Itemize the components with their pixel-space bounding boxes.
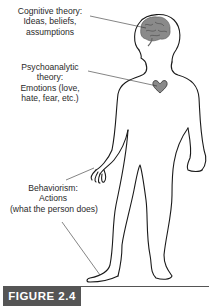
- psychoanalytic-line-1: Psychoanalytic: [14, 62, 86, 72]
- psychoanalytic-line-4: hate, fear, etc.): [14, 93, 86, 103]
- body-outline: [87, 15, 206, 282]
- leader-psychoanalytic: [88, 71, 157, 86]
- leader-lines: [62, 16, 157, 275]
- leader-cognitive: [90, 16, 146, 28]
- brain-icon: [141, 17, 170, 46]
- leader-behaviorism-hand: [66, 168, 94, 180]
- cognitive-line-3: assumptions: [8, 27, 92, 37]
- psychoanalytic-line-2: theory:: [14, 72, 86, 82]
- cognitive-line-2: Ideas, beliefs,: [8, 16, 92, 26]
- behaviorism-label: Behaviorism: Actions (what the person do…: [10, 183, 96, 214]
- cognitive-line-1: Cognitive theory:: [8, 6, 92, 16]
- behaviorism-line-3: (what the person does): [10, 204, 96, 214]
- human-figure-illustration: [0, 0, 212, 308]
- heart-icon: [153, 81, 167, 93]
- cognitive-theory-label: Cognitive theory: Ideas, beliefs, assump…: [8, 6, 92, 37]
- figure-label-badge: FIGURE 2.4: [3, 287, 81, 306]
- leader-behaviorism-foot: [62, 222, 100, 275]
- behaviorism-line-1: Behaviorism:: [10, 183, 96, 193]
- behaviorism-line-2: Actions: [10, 193, 96, 203]
- psychoanalytic-line-3: Emotions (love,: [14, 83, 86, 93]
- psychoanalytic-theory-label: Psychoanalytic theory: Emotions (love, h…: [14, 62, 86, 104]
